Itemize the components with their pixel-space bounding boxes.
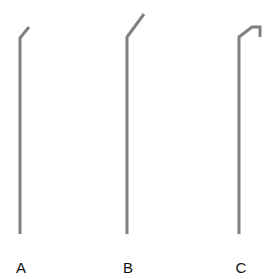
rods-diagram	[0, 0, 269, 279]
label-b: B	[123, 260, 133, 275]
label-a: A	[16, 260, 26, 275]
rod-c-shape	[239, 27, 260, 234]
rod-a-shape	[20, 27, 29, 234]
rod-b-shape	[127, 14, 144, 234]
label-c: C	[236, 260, 247, 275]
